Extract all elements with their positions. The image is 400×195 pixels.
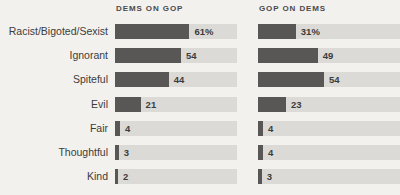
- bar-track: [115, 145, 237, 160]
- bar-value-label: 3: [124, 145, 129, 160]
- chart-row: Spiteful4454: [0, 70, 400, 89]
- bar-value-label: 23: [291, 97, 302, 112]
- bar-value-label: 21: [146, 97, 157, 112]
- bar-value-label: 44: [174, 72, 185, 87]
- bar-gop-on-dems: [258, 72, 324, 87]
- row-label: Spiteful: [0, 70, 108, 89]
- bar-group-dems-on-gop: 54: [115, 48, 237, 63]
- row-label: Ignorant: [0, 46, 108, 65]
- bar-group-dems-on-gop: 61%: [115, 24, 237, 39]
- bar-gop-on-dems: [258, 48, 318, 63]
- chart-row: Fair44: [0, 119, 400, 138]
- bar-group-gop-on-dems: 31%: [258, 24, 400, 39]
- bar-dems-on-gop: [115, 24, 189, 39]
- bar-dems-on-gop: [115, 97, 141, 112]
- column-header-dems-on-gop: DEMS ON GOP: [116, 4, 183, 13]
- bar-group-dems-on-gop: 2: [115, 169, 237, 184]
- column-header-gop-on-dems: GOP ON DEMS: [259, 4, 326, 13]
- bar-value-label: 4: [268, 145, 273, 160]
- bar-value-label: 54: [329, 72, 340, 87]
- bar-gop-on-dems: [258, 121, 263, 136]
- bar-group-gop-on-dems: 49: [258, 48, 400, 63]
- bar-group-dems-on-gop: 21: [115, 97, 237, 112]
- bar-group-gop-on-dems: 23: [258, 97, 400, 112]
- row-label: Racist/Bigoted/Sexist: [0, 22, 108, 41]
- bar-track: [258, 169, 400, 184]
- bar-track: [115, 121, 237, 136]
- bar-value-label: 31%: [301, 24, 320, 39]
- bar-value-label: 4: [125, 121, 130, 136]
- bar-dems-on-gop: [115, 121, 120, 136]
- bar-gop-on-dems: [258, 145, 263, 160]
- bar-value-label: 3: [267, 169, 272, 184]
- chart-row: Thoughtful34: [0, 143, 400, 162]
- bar-dems-on-gop: [115, 72, 169, 87]
- bar-value-label: 2: [123, 169, 128, 184]
- row-label: Evil: [0, 95, 108, 114]
- bar-value-label: 61%: [194, 24, 213, 39]
- row-label: Fair: [0, 119, 108, 138]
- bar-group-dems-on-gop: 44: [115, 72, 237, 87]
- bar-group-gop-on-dems: 4: [258, 145, 400, 160]
- row-label: Kind: [0, 167, 108, 186]
- bar-dems-on-gop: [115, 48, 181, 63]
- chart-row: Evil2123: [0, 95, 400, 114]
- bar-gop-on-dems: [258, 97, 286, 112]
- bar-value-label: 49: [323, 48, 334, 63]
- grouped-bar-chart: DEMS ON GOP GOP ON DEMS Racist/Bigoted/S…: [0, 0, 400, 195]
- bar-value-label: 4: [268, 121, 273, 136]
- bar-group-dems-on-gop: 3: [115, 145, 237, 160]
- bar-track: [258, 121, 400, 136]
- row-label: Thoughtful: [0, 143, 108, 162]
- bar-gop-on-dems: [258, 24, 296, 39]
- bar-dems-on-gop: [115, 169, 118, 184]
- bar-gop-on-dems: [258, 169, 262, 184]
- bar-dems-on-gop: [115, 145, 119, 160]
- chart-row: Kind23: [0, 167, 400, 186]
- bar-track: [115, 169, 237, 184]
- bar-group-gop-on-dems: 3: [258, 169, 400, 184]
- chart-row: Racist/Bigoted/Sexist61%31%: [0, 22, 400, 41]
- chart-row: Ignorant5449: [0, 46, 400, 65]
- bar-value-label: 54: [186, 48, 197, 63]
- bar-group-gop-on-dems: 4: [258, 121, 400, 136]
- bar-group-dems-on-gop: 4: [115, 121, 237, 136]
- bar-track: [258, 145, 400, 160]
- bar-group-gop-on-dems: 54: [258, 72, 400, 87]
